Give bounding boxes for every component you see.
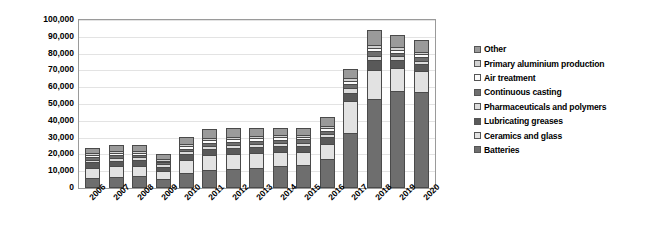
legend-label: Batteries: [484, 145, 519, 155]
legend-swatch-icon: [474, 103, 481, 110]
bar-segment-ceramics-and-glass: [249, 153, 264, 168]
y-tick-label: 80,000: [24, 49, 74, 57]
y-tick-label: 30,000: [24, 133, 74, 141]
y-tick-label: 40,000: [24, 116, 74, 124]
bar-segment-ceramics-and-glass: [390, 68, 405, 92]
bar-segment-other: [273, 128, 288, 136]
bar-2006[interactable]: [85, 148, 100, 188]
plot-area: [78, 19, 436, 189]
lithium-production-stacked-bar-chart: Lithium production (t) 100,00090,00080,0…: [0, 0, 645, 227]
bar-segment-ceramics-and-glass: [414, 71, 429, 92]
legend-item-pharmaceuticals-and-polymers[interactable]: Pharmaceuticals and polymers: [474, 100, 642, 114]
legend-item-batteries[interactable]: Batteries: [474, 143, 642, 157]
y-tick-label: 60,000: [24, 82, 74, 90]
bar-segment-other: [202, 129, 217, 138]
bar-segment-other: [367, 30, 382, 45]
legend-item-air-treatment[interactable]: Air treatment: [474, 71, 642, 85]
bar-segment-ceramics-and-glass: [273, 152, 288, 166]
bar-segment-other: [249, 128, 264, 137]
bar-segment-other: [320, 117, 335, 126]
legend-swatch-icon: [474, 46, 481, 53]
bar-2018[interactable]: [367, 30, 382, 188]
bar-segment-lubricating-greases: [343, 93, 358, 102]
bar-2020[interactable]: [414, 40, 429, 188]
legend-swatch-icon: [474, 132, 481, 139]
bar-segment-ceramics-and-glass: [296, 152, 311, 166]
bar-segment-ceramics-and-glass: [320, 144, 335, 159]
legend-label: Lubricating greases: [484, 116, 563, 126]
legend-item-other[interactable]: Other: [474, 42, 642, 56]
y-tick-label: 10,000: [24, 166, 74, 174]
bar-segment-ceramics-and-glass: [343, 101, 358, 132]
bar-group: [79, 20, 435, 188]
bar-segment-lubricating-greases: [390, 60, 405, 68]
legend-swatch-icon: [474, 60, 481, 67]
legend-item-lubricating-greases[interactable]: Lubricating greases: [474, 114, 642, 128]
bar-segment-lubricating-greases: [367, 60, 382, 69]
bar-segment-other: [179, 137, 194, 144]
legend-item-ceramics-and-glass[interactable]: Ceramics and glass: [474, 128, 642, 142]
legend-label: Pharmaceuticals and polymers: [484, 102, 606, 112]
legend-swatch-icon: [474, 118, 481, 125]
chart-legend: OtherPrimary aluminium productionAir tre…: [474, 42, 642, 157]
bar-segment-other: [390, 35, 405, 47]
legend-swatch-icon: [474, 146, 481, 153]
bar-segment-ceramics-and-glass: [85, 168, 100, 178]
legend-label: Primary aluminium production: [484, 59, 604, 69]
bar-2019[interactable]: [390, 35, 405, 188]
bar-segment-lubricating-greases: [414, 64, 429, 71]
bar-segment-other: [343, 69, 358, 78]
y-tick-label: 90,000: [24, 32, 74, 40]
y-tick-label: 50,000: [24, 99, 74, 107]
bar-segment-other: [414, 40, 429, 52]
bar-segment-ceramics-and-glass: [367, 70, 382, 99]
y-axis-tick-labels: 100,00090,00080,00070,00060,00050,00040,…: [26, 14, 76, 190]
legend-swatch-icon: [474, 74, 481, 81]
y-tick-label: 20,000: [24, 149, 74, 157]
legend-item-primary-aluminium-production[interactable]: Primary aluminium production: [474, 56, 642, 70]
legend-label: Continuous casting: [484, 87, 562, 97]
bar-segment-other: [296, 128, 311, 135]
bar-segment-other: [226, 128, 241, 137]
legend-item-continuous-casting[interactable]: Continuous casting: [474, 85, 642, 99]
y-tick-label: 100,000: [24, 15, 74, 23]
y-tick-label: 0: [24, 183, 74, 191]
legend-label: Ceramics and glass: [484, 131, 562, 141]
y-tick-label: 70,000: [24, 65, 74, 73]
legend-label: Air treatment: [484, 73, 536, 83]
x-axis-tick-labels: 2006200720082009201020112012201320142015…: [78, 189, 436, 227]
legend-swatch-icon: [474, 89, 481, 96]
legend-label: Other: [484, 44, 506, 54]
